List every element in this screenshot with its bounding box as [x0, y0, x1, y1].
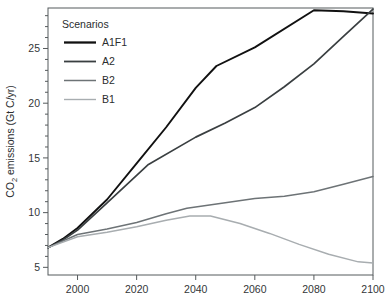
x-tick-label: 2020 — [125, 283, 149, 295]
x-tick-label: 2100 — [361, 283, 385, 295]
chart-canvas: 510152025200020202040206020802100 Scenar… — [0, 0, 387, 303]
y-tick-label: 20 — [28, 97, 40, 109]
plot-frame — [48, 8, 373, 275]
y-axis-title-text: CO2 emissions (Gt C/yr) — [4, 85, 19, 198]
x-tick-label: 2060 — [243, 283, 267, 295]
x-tick-label: 2080 — [302, 283, 326, 295]
y-axis-title: CO2 emissions (Gt C/yr) — [4, 85, 19, 198]
legend-label-a2: A2 — [102, 55, 115, 67]
legend-label-b2: B2 — [102, 74, 115, 86]
y-tick-label: 15 — [28, 152, 40, 164]
legend-label-b1: B1 — [102, 93, 115, 105]
series-line-a2 — [48, 9, 373, 248]
x-tick-label: 2040 — [184, 283, 208, 295]
y-tick-label: 10 — [28, 206, 40, 218]
chart-series — [48, 9, 373, 263]
chart-axes — [48, 8, 373, 275]
legend-title: Scenarios — [62, 18, 109, 30]
legend-label-a1f1: A1F1 — [102, 36, 127, 48]
y-tick-label: 5 — [34, 261, 40, 273]
y-tick-label: 25 — [28, 42, 40, 54]
series-line-b1 — [48, 216, 373, 263]
chart-figure: 510152025200020202040206020802100 Scenar… — [0, 0, 387, 303]
x-tick-label: 2000 — [66, 283, 90, 295]
chart-legend: ScenariosA1F1A2B2B1 — [62, 18, 127, 105]
